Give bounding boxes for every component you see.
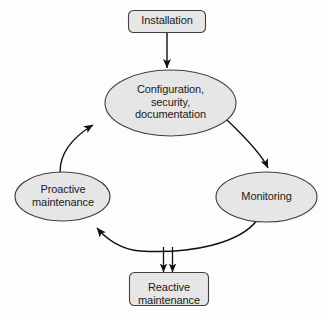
node-monitoring-shape[interactable] — [216, 172, 317, 222]
node-installation-shape[interactable] — [129, 11, 206, 33]
node-reactive-shape[interactable] — [130, 273, 209, 306]
node-configuration-shape[interactable] — [105, 70, 236, 136]
edge-monitoring-to-proactive — [97, 219, 258, 252]
edge-proactive-to-configuration — [60, 125, 93, 172]
diagram-canvas: Installation Configuration, security, do… — [0, 0, 328, 317]
edge-configuration-to-monitoring — [227, 120, 268, 168]
diagram-graphics — [0, 0, 328, 317]
node-proactive-shape[interactable] — [15, 172, 110, 221]
